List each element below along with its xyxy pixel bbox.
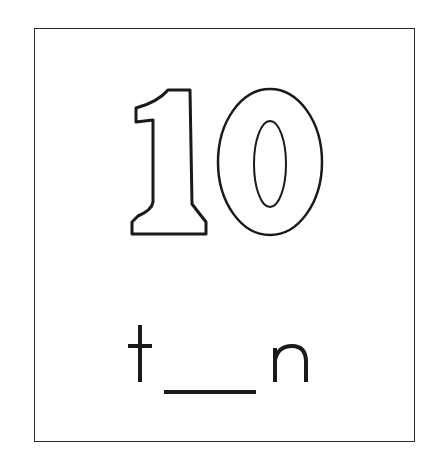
letter-n	[275, 346, 306, 382]
letter-t	[128, 325, 152, 382]
digit-zero-inner	[254, 121, 286, 207]
digit-one-outline	[132, 90, 206, 234]
numeral-ten-outline: 10	[128, 84, 324, 238]
fill-in-word	[120, 318, 320, 398]
